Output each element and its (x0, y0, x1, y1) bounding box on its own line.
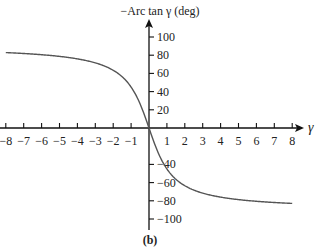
y-axis-label: −Arc tan γ (deg) (120, 4, 199, 18)
x-tick-label: −1 (125, 134, 138, 148)
x-tick-label: −2 (107, 134, 120, 148)
x-tick-label: 1 (164, 134, 170, 148)
x-tick-label: 8 (289, 134, 295, 148)
x-tick-label: 6 (253, 134, 259, 148)
y-tick-label: 20 (157, 103, 169, 117)
x-tick-label: 2 (182, 134, 188, 148)
x-tick-label: 5 (236, 134, 242, 148)
x-tick-label: 7 (271, 134, 277, 148)
y-tick-label: 80 (157, 48, 169, 62)
x-tick-label: −6 (35, 134, 48, 148)
y-tick-label: −60 (157, 176, 176, 190)
x-tick-label: 4 (218, 134, 224, 148)
x-tick-label: 3 (200, 134, 206, 148)
x-axis-label: γ (308, 120, 314, 135)
x-tick-label: −4 (71, 134, 84, 148)
x-tick-label: −5 (53, 134, 66, 148)
y-tick-label: −80 (157, 194, 176, 208)
figure-caption: (b) (143, 233, 158, 247)
x-tick-label: −8 (0, 134, 12, 148)
x-tick-label: −7 (17, 134, 30, 148)
y-tick-label: 60 (157, 66, 169, 80)
y-tick-label: 40 (157, 85, 169, 99)
axes (0, 19, 304, 230)
x-tick-label: −3 (89, 134, 102, 148)
y-tick-label: 100 (157, 30, 175, 44)
y-tick-label: −100 (157, 212, 182, 226)
chart: −8−7−6−5−4−3−2−11234567810080604020−40−6… (0, 0, 322, 250)
